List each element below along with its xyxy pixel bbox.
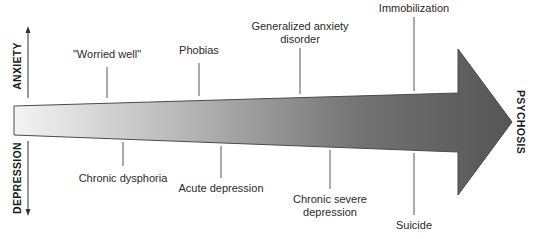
label-chronic-dysphoria: Chronic dysphoria xyxy=(73,172,173,185)
label-generalized-anxiety: Generalized anxiety disorder xyxy=(245,20,355,46)
label-suicide: Suicide xyxy=(389,219,439,232)
label-chronic-severe-line1: Chronic severe xyxy=(285,193,375,206)
label-generalized-anxiety-line2: disorder xyxy=(245,33,355,46)
label-immobilization: Immobilization xyxy=(369,2,459,15)
label-chronic-severe-depression: Chronic severe depression xyxy=(285,193,375,219)
label-chronic-severe-line2: depression xyxy=(285,206,375,219)
anxiety-axis-label: ANXIETY xyxy=(11,41,23,91)
label-acute-depression: Acute depression xyxy=(171,182,271,195)
label-generalized-anxiety-line1: Generalized anxiety xyxy=(245,20,355,33)
psychosis-label: PSYCHOSIS xyxy=(515,87,527,157)
label-worried-well: "Worried well" xyxy=(67,48,147,61)
anxiety-axis-arrow xyxy=(26,26,31,98)
depression-axis-arrow xyxy=(26,141,31,216)
depression-axis-label: DEPRESSION xyxy=(11,136,23,220)
label-phobias: Phobias xyxy=(169,44,229,57)
